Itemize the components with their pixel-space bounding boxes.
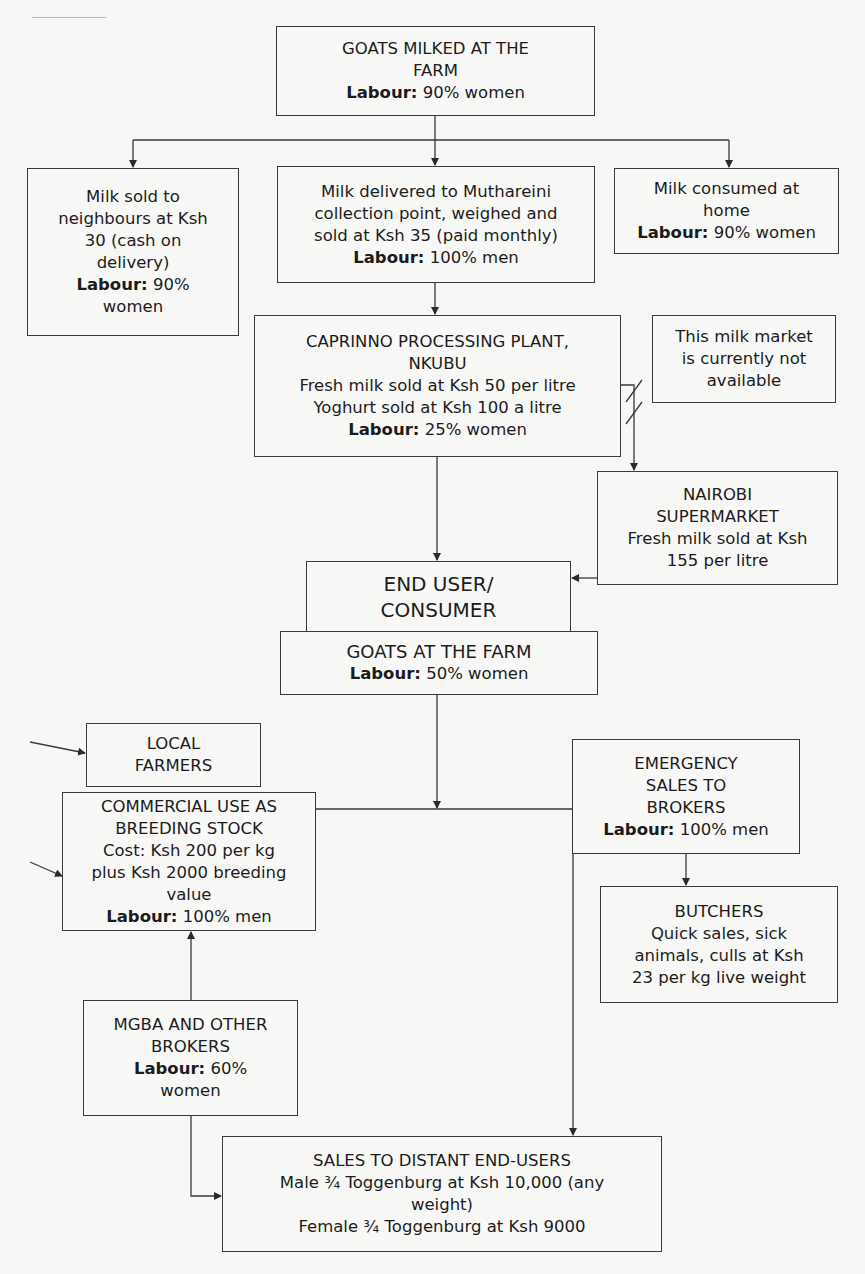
node-text: weight) bbox=[411, 1194, 473, 1216]
node-text: Cost: Ksh 200 per kg bbox=[103, 840, 275, 862]
node-text: delivery) bbox=[97, 252, 170, 274]
labour-value: 90% women bbox=[714, 223, 816, 242]
node-text: COMMERCIAL USE AS bbox=[101, 796, 277, 818]
node-milk-muthareini: Milk delivered to Muthareini collection … bbox=[277, 166, 595, 283]
labour-line: Labour: 90% bbox=[76, 274, 189, 296]
node-text: home bbox=[703, 200, 750, 222]
node-text: available bbox=[707, 370, 781, 392]
node-text: Male ¾ Toggenburg at Ksh 10,000 (any bbox=[280, 1172, 604, 1194]
node-nairobi: NAIROBI SUPERMARKET Fresh milk sold at K… bbox=[597, 471, 838, 585]
node-commercial: COMMERCIAL USE AS BREEDING STOCK Cost: K… bbox=[62, 792, 316, 931]
node-text: LOCAL bbox=[147, 733, 201, 755]
labour-label: Labour: bbox=[603, 820, 674, 839]
node-text: is currently not bbox=[682, 348, 807, 370]
labour-line: Labour: 90% women bbox=[637, 222, 816, 244]
node-text: 23 per kg live weight bbox=[632, 967, 806, 989]
node-text: BROKERS bbox=[151, 1036, 230, 1058]
node-text: END USER/ bbox=[384, 571, 494, 597]
labour-value: 25% women bbox=[425, 420, 527, 439]
node-text: BREEDING STOCK bbox=[115, 818, 262, 840]
node-text: Milk consumed at bbox=[654, 178, 799, 200]
node-text: FARMERS bbox=[135, 755, 212, 777]
node-emergency: EMERGENCY SALES TO BROKERS Labour: 100% … bbox=[572, 739, 800, 854]
node-local-farmers: LOCAL FARMERS bbox=[86, 723, 261, 787]
labour-value: 100% men bbox=[680, 820, 769, 839]
node-text: value bbox=[166, 884, 211, 906]
labour-label: Labour: bbox=[350, 664, 421, 683]
node-end-user: END USER/ CONSUMER bbox=[306, 561, 571, 633]
node-milk-home: Milk consumed at home Labour: 90% women bbox=[614, 168, 839, 254]
labour-value: 100% men bbox=[430, 248, 519, 267]
labour-line: Labour: 100% men bbox=[106, 906, 272, 928]
labour-label: Labour: bbox=[76, 275, 147, 294]
labour-value: 50% women bbox=[426, 664, 528, 683]
labour-line: Labour: 100% men bbox=[603, 819, 769, 841]
labour-label: Labour: bbox=[106, 907, 177, 926]
node-text: NAIROBI bbox=[683, 484, 752, 506]
labour-value: 60% bbox=[210, 1059, 247, 1078]
node-text: 155 per litre bbox=[667, 550, 769, 572]
labour-line: Labour: 100% men bbox=[353, 247, 519, 269]
labour-value-cont: women bbox=[160, 1080, 220, 1102]
node-text: GOATS AT THE FARM bbox=[346, 641, 531, 663]
node-text: SUPERMARKET bbox=[656, 506, 779, 528]
node-text: 30 (cash on bbox=[85, 230, 182, 252]
node-text: plus Ksh 2000 breeding bbox=[92, 862, 287, 884]
node-text: Fresh milk sold at Ksh bbox=[628, 528, 808, 550]
node-text: Milk delivered to Muthareini bbox=[321, 181, 551, 203]
node-goats-farm: GOATS AT THE FARM Labour: 50% women bbox=[280, 631, 598, 695]
labour-label: Labour: bbox=[134, 1059, 205, 1078]
labour-label: Labour: bbox=[637, 223, 708, 242]
node-text: CAPRINNO PROCESSING PLANT, bbox=[306, 331, 569, 353]
node-text: NKUBU bbox=[408, 353, 466, 375]
labour-line: Labour: 50% women bbox=[350, 663, 529, 685]
node-text: collection point, weighed and bbox=[314, 203, 557, 225]
node-distant-sales: SALES TO DISTANT END-USERS Male ¾ Toggen… bbox=[222, 1136, 662, 1252]
labour-label: Labour: bbox=[348, 420, 419, 439]
node-text: SALES TO bbox=[646, 775, 726, 797]
node-text: CONSUMER bbox=[381, 597, 497, 623]
labour-value: 90% women bbox=[423, 83, 525, 102]
node-mgba-brokers: MGBA AND OTHER BROKERS Labour: 60% women bbox=[83, 1000, 298, 1116]
node-text: Milk sold to bbox=[86, 186, 180, 208]
labour-label: Labour: bbox=[346, 83, 417, 102]
node-text: Fresh milk sold at Ksh 50 per litre bbox=[299, 375, 575, 397]
node-text: MGBA AND OTHER bbox=[114, 1014, 268, 1036]
labour-line: Labour: 25% women bbox=[348, 419, 527, 441]
node-text: animals, culls at Ksh bbox=[634, 945, 803, 967]
labour-label: Labour: bbox=[353, 248, 424, 267]
node-text: Yoghurt sold at Ksh 100 a litre bbox=[313, 397, 561, 419]
node-text: FARM bbox=[413, 60, 458, 82]
labour-line: Labour: 90% women bbox=[346, 82, 525, 104]
node-butchers: BUTCHERS Quick sales, sick animals, cull… bbox=[600, 886, 838, 1003]
node-text: neighbours at Ksh bbox=[58, 208, 207, 230]
node-text: sold at Ksh 35 (paid monthly) bbox=[314, 225, 558, 247]
node-caprinno: CAPRINNO PROCESSING PLANT, NKUBU Fresh m… bbox=[254, 315, 621, 457]
node-goats-milked: GOATS MILKED AT THE FARM Labour: 90% wom… bbox=[276, 26, 595, 116]
node-text: EMERGENCY bbox=[634, 753, 737, 775]
node-text: This milk market bbox=[675, 326, 813, 348]
labour-value-cont: women bbox=[103, 296, 163, 318]
node-text: GOATS MILKED AT THE bbox=[342, 38, 529, 60]
node-milk-neighbours: Milk sold to neighbours at Ksh 30 (cash … bbox=[27, 168, 239, 336]
node-text: BROKERS bbox=[647, 797, 726, 819]
labour-value: 100% men bbox=[183, 907, 272, 926]
node-text: Quick sales, sick bbox=[651, 923, 787, 945]
node-not-available: This milk market is currently not availa… bbox=[652, 315, 836, 403]
node-text: Female ¾ Toggenburg at Ksh 9000 bbox=[298, 1216, 585, 1238]
node-text: BUTCHERS bbox=[675, 901, 764, 923]
node-text: SALES TO DISTANT END-USERS bbox=[313, 1150, 571, 1172]
labour-line: Labour: 60% bbox=[134, 1058, 247, 1080]
labour-value: 90% bbox=[153, 275, 190, 294]
